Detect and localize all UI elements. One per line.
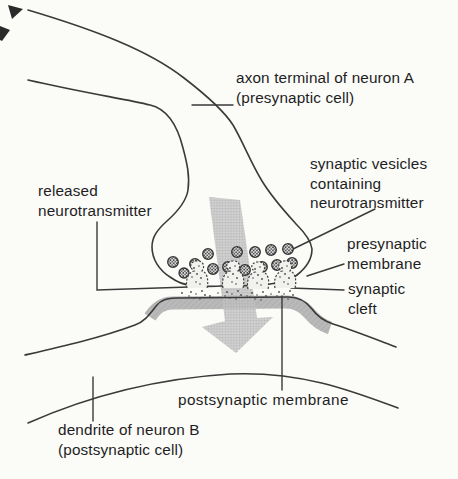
released-neurotransmitter-label-line2: neurotransmitter xyxy=(38,201,152,221)
dendrite-label-line2: (postsynaptic cell) xyxy=(58,440,200,460)
released-neurotransmitter-label-line1: released xyxy=(38,181,152,201)
synaptic-vesicles-label-line2: containing xyxy=(310,174,427,194)
presynaptic-membrane-label: presynaptic membrane xyxy=(347,234,427,273)
released-neurotransmitter-label: released neurotransmitter xyxy=(38,181,152,220)
synaptic-vesicle xyxy=(250,247,261,258)
presynaptic-membrane-leader xyxy=(307,264,344,276)
release-site xyxy=(186,261,207,300)
postsynaptic-membrane-label: postsynaptic membrane xyxy=(178,390,349,410)
synaptic-vesicle xyxy=(208,264,219,275)
synaptic-cleft-label-line1: synaptic xyxy=(348,279,405,299)
synaptic-cleft-label: synaptic cleft xyxy=(348,279,405,318)
axon-terminal-label: axon terminal of neuron A (presynaptic c… xyxy=(236,68,414,107)
synaptic-vesicle xyxy=(168,257,179,268)
synaptic-vesicle xyxy=(283,244,294,255)
synaptic-cleft-leader xyxy=(291,288,344,290)
presynaptic-membrane-label-line1: presynaptic xyxy=(347,234,427,254)
synaptic-vesicles-label: synaptic vesicles containing neurotransm… xyxy=(310,154,427,213)
synaptic-vesicle xyxy=(266,245,277,256)
axon-outer-membrane xyxy=(28,10,312,281)
axon-terminal-label-line2: (presynaptic cell) xyxy=(236,88,414,108)
dendrite-label-line1: dendrite of neuron B xyxy=(58,420,200,440)
postsynaptic-membrane-label-line1: postsynaptic membrane xyxy=(178,390,349,410)
axon-terminal-label-line1: axon terminal of neuron A xyxy=(236,68,414,88)
synaptic-vesicles-label-line3: neurotransmitter xyxy=(310,193,427,213)
synaptic-vesicle xyxy=(203,249,214,260)
synaptic-vesicles-label-line1: synaptic vesicles xyxy=(310,154,427,174)
synapse-diagram: axon terminal of neuron A (presynaptic c… xyxy=(0,0,458,479)
corner-print-marks xyxy=(0,5,23,41)
presynaptic-membrane-label-line2: membrane xyxy=(347,254,427,274)
synaptic-cleft-label-line2: cleft xyxy=(348,299,405,319)
dendrite-label: dendrite of neuron B (postsynaptic cell) xyxy=(58,420,200,459)
synaptic-vesicle xyxy=(232,247,243,258)
